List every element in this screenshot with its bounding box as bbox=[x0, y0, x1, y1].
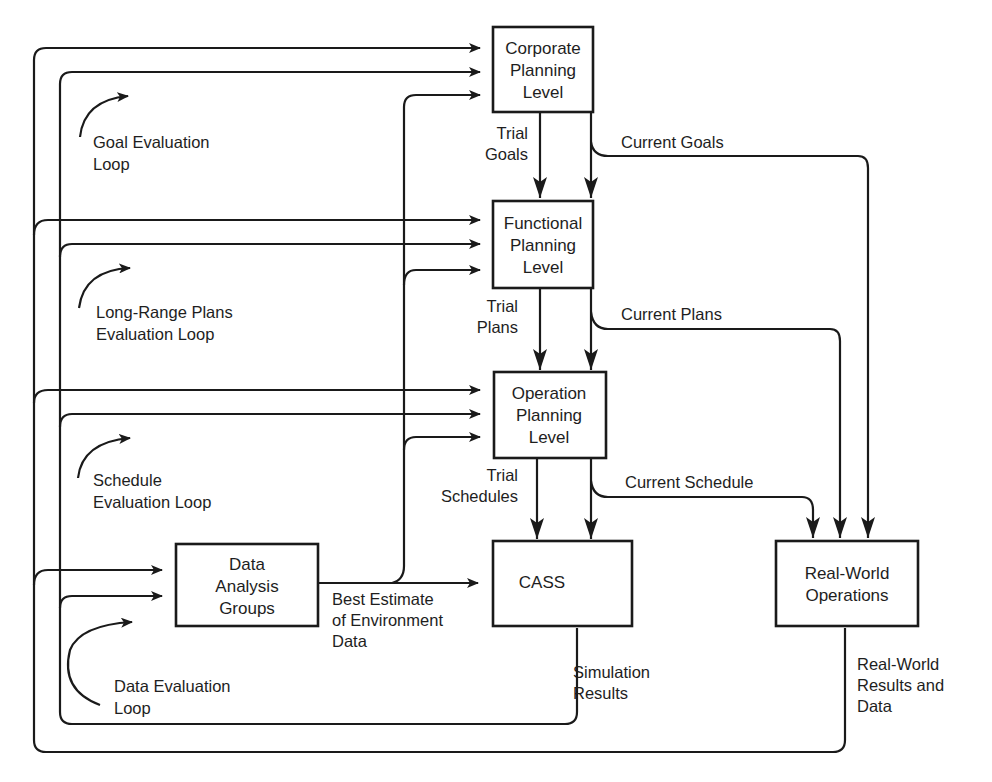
cass-label: CASS bbox=[519, 573, 565, 592]
svg-text:Data: Data bbox=[332, 632, 368, 650]
operation-line-1: Operation bbox=[512, 384, 587, 403]
svg-text:Simulation: Simulation bbox=[573, 663, 650, 681]
svg-text:Goal Evaluation: Goal Evaluation bbox=[93, 133, 210, 151]
real-world-line-2: Operations bbox=[805, 586, 888, 605]
svg-text:Evaluation Loop: Evaluation Loop bbox=[96, 325, 214, 343]
data-analysis-line-2: Analysis bbox=[215, 577, 278, 596]
operation-line-3: Level bbox=[529, 428, 570, 447]
data-analysis-box: Data Analysis Groups bbox=[176, 544, 318, 626]
trial-goals-label: Trial Goals bbox=[485, 124, 528, 163]
svg-text:Plans: Plans bbox=[477, 318, 518, 336]
real-world-operations-box: Real-World Operations bbox=[776, 541, 918, 626]
real-world-results-label: Real-World Results and Data bbox=[857, 655, 944, 715]
best-estimate-feed-line bbox=[319, 95, 480, 583]
functional-line-2: Planning bbox=[510, 236, 576, 255]
corporate-planning-box: Corporate Planning Level bbox=[493, 27, 593, 112]
svg-text:Long-Range Plans: Long-Range Plans bbox=[96, 303, 233, 321]
cass-box: CASS bbox=[493, 541, 632, 626]
svg-text:Current Schedule: Current Schedule bbox=[625, 473, 753, 491]
goal-evaluation-loop-label: Goal Evaluation Loop bbox=[93, 133, 210, 173]
svg-text:Real-World: Real-World bbox=[857, 655, 939, 673]
current-plans-label: Current Plans bbox=[621, 305, 722, 323]
functional-planning-box: Functional Planning Level bbox=[493, 201, 593, 288]
svg-text:Data: Data bbox=[857, 697, 893, 715]
corporate-line-2: Planning bbox=[510, 61, 576, 80]
real-world-line-1: Real-World bbox=[805, 564, 890, 583]
best-estimate-label: Best Estimate of Environment Data bbox=[332, 590, 443, 650]
functional-line-1: Functional bbox=[504, 214, 582, 233]
goal-loop-curved-arrow-icon bbox=[80, 96, 128, 137]
operation-line-2: Planning bbox=[516, 406, 582, 425]
planning-loop-diagram: Corporate Planning Level Functional Plan… bbox=[0, 0, 992, 782]
svg-text:Evaluation Loop: Evaluation Loop bbox=[93, 493, 211, 511]
data-analysis-line-3: Groups bbox=[219, 599, 275, 618]
long-range-loop-curved-arrow-icon bbox=[79, 268, 130, 308]
svg-text:Results and: Results and bbox=[857, 676, 944, 694]
corporate-line-1: Corporate bbox=[505, 39, 581, 58]
svg-text:Loop: Loop bbox=[114, 699, 151, 717]
svg-text:Loop: Loop bbox=[93, 155, 130, 173]
svg-text:Current Goals: Current Goals bbox=[621, 133, 724, 151]
real-world-feedback-line bbox=[34, 48, 845, 752]
simulation-results-label: Simulation Results bbox=[573, 663, 650, 702]
operation-planning-box: Operation Planning Level bbox=[494, 372, 606, 458]
svg-text:Trial: Trial bbox=[497, 124, 528, 142]
current-plans-arrow bbox=[591, 289, 840, 538]
data-evaluation-loop-label: Data Evaluation Loop bbox=[114, 677, 231, 717]
svg-text:Schedule: Schedule bbox=[93, 471, 162, 489]
svg-text:Data Evaluation: Data Evaluation bbox=[114, 677, 231, 695]
schedule-evaluation-loop-label: Schedule Evaluation Loop bbox=[93, 471, 211, 511]
current-schedule-arrow bbox=[591, 459, 813, 539]
current-goals-label: Current Goals bbox=[621, 133, 724, 151]
functional-line-3: Level bbox=[523, 258, 564, 277]
svg-text:of Environment: of Environment bbox=[332, 611, 443, 629]
svg-text:Trial: Trial bbox=[487, 297, 518, 315]
svg-text:Trial: Trial bbox=[487, 466, 518, 484]
svg-text:Results: Results bbox=[573, 684, 628, 702]
data-analysis-line-1: Data bbox=[229, 555, 265, 574]
svg-text:Best Estimate: Best Estimate bbox=[332, 590, 434, 608]
trial-plans-label: Trial Plans bbox=[477, 297, 518, 336]
long-range-plans-loop-label: Long-Range Plans Evaluation Loop bbox=[96, 303, 233, 343]
current-schedule-label: Current Schedule bbox=[625, 473, 753, 491]
svg-text:Schedules: Schedules bbox=[441, 487, 518, 505]
corporate-line-3: Level bbox=[523, 83, 564, 102]
svg-text:Goals: Goals bbox=[485, 145, 528, 163]
svg-text:Current Plans: Current Plans bbox=[621, 305, 722, 323]
trial-schedules-label: Trial Schedules bbox=[441, 466, 518, 505]
